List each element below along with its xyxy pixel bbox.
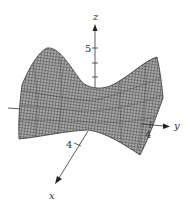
saddle-surface-plot: 5 z 4 y 4 x (0, 0, 187, 204)
z-arrow-icon (93, 24, 98, 31)
x-arrow-icon (55, 176, 62, 184)
x-axis-label: x (49, 190, 55, 201)
y-arrow-icon (163, 124, 170, 130)
z-axis: 5 z (85, 11, 99, 89)
y-tick-label: 4 (145, 129, 151, 140)
x-tick-label: 4 (66, 139, 72, 150)
z-tick-label: 5 (85, 43, 91, 54)
z-axis-label: z (92, 11, 99, 22)
x-axis: 4 x (49, 131, 88, 201)
y-axis-label: y (173, 120, 180, 131)
